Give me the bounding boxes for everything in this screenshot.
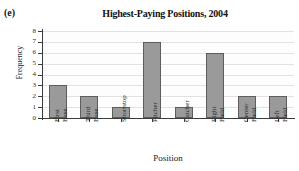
panel-letter-label: (e) (4, 7, 15, 18)
y-tick-label: 7 (22, 38, 36, 45)
x-category-label-line: Field (282, 108, 290, 122)
y-tick-label: 4 (22, 71, 36, 78)
x-category-label-line: Pitcher (152, 102, 160, 122)
y-axis-line (42, 29, 43, 120)
y-tick-label: 2 (22, 93, 36, 100)
y-tick-mark (38, 85, 42, 86)
gridline (42, 53, 294, 54)
x-category-label: LeftField (274, 108, 289, 122)
y-tick-mark (38, 75, 42, 76)
x-category-label-line: Base (93, 106, 101, 122)
y-tick-mark (38, 118, 42, 119)
y-tick-mark (38, 107, 42, 108)
gridline (42, 64, 294, 65)
x-category-label: Pitcher (152, 102, 160, 122)
x-category-label: Shortstop (121, 95, 129, 122)
y-tick-label: 0 (22, 115, 36, 122)
y-tick-mark (38, 96, 42, 97)
y-tick-label: 5 (22, 60, 36, 67)
y-tick-label: 8 (22, 28, 36, 35)
x-category-label: CenterField (243, 103, 258, 122)
x-category-label-line: Shortstop (121, 95, 129, 122)
gridline (42, 85, 294, 86)
y-tick-label: 3 (22, 82, 36, 89)
y-tick-mark (38, 42, 42, 43)
x-category-label-line: Base (61, 108, 69, 122)
x-category-label-line: Field (219, 106, 227, 122)
figure-panel: (e) Highest-Paying Positions, 2004 Frequ… (0, 0, 299, 171)
gridline (42, 42, 294, 43)
x-category-label: FirstBase (54, 108, 69, 122)
gridline (42, 31, 294, 32)
x-category-label: Catcher (184, 100, 192, 122)
gridline (42, 75, 294, 76)
chart-title: Highest-Paying Positions, 2004 (60, 8, 270, 19)
x-category-label-line: Field (250, 103, 258, 122)
x-category-label: RightField (211, 106, 226, 122)
x-axis-title: Position (42, 153, 294, 163)
y-tick-mark (38, 64, 42, 65)
y-tick-label: 1 (22, 104, 36, 111)
x-category-label-line: Catcher (184, 100, 192, 122)
y-tick-mark (38, 53, 42, 54)
x-category-label: ThirdBase (85, 106, 100, 122)
y-tick-label: 6 (22, 49, 36, 56)
y-tick-mark (38, 31, 42, 32)
